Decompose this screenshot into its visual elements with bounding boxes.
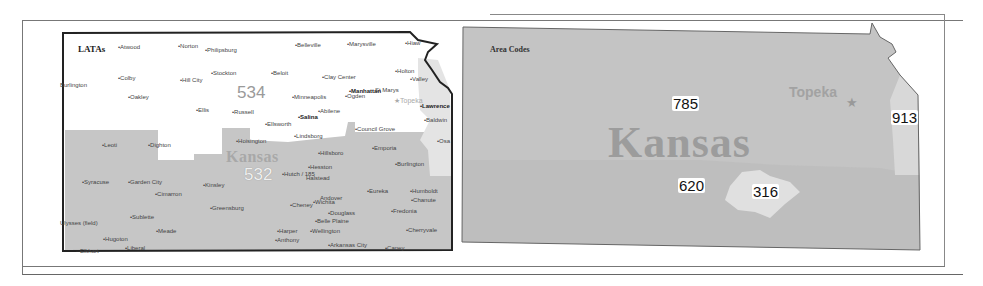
area-code-913: 913 [891,110,918,125]
area-code-map: Area Codes Kansas Topeka ★ 785 913 620 3… [0,0,983,286]
area-code-map-title: Area Codes [490,45,530,54]
capital-label-right: Topeka [789,84,837,100]
state-label-right: Kansas [608,117,751,168]
area-code-785: 785 [672,96,699,111]
star-icon: ★ [846,95,858,110]
area-code-620: 620 [678,178,705,193]
area-code-316: 316 [752,184,779,199]
area-code-map-shapes [0,0,983,286]
region-620 [462,160,920,250]
